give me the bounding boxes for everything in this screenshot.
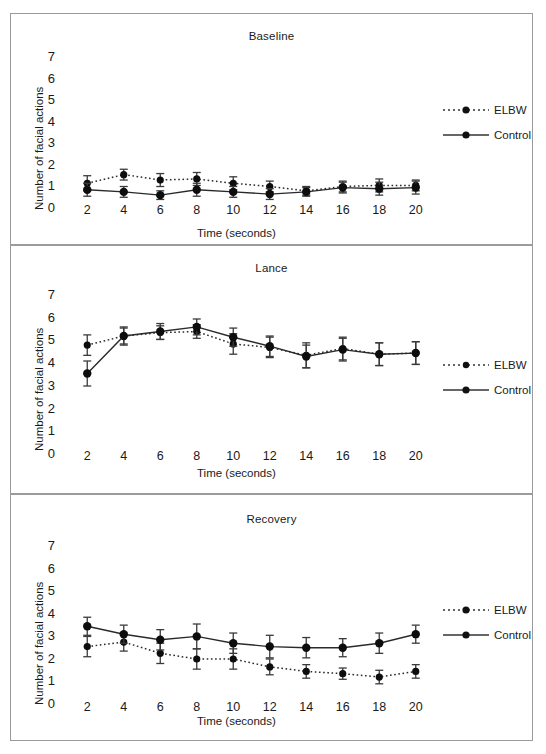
legend-key-elbw-icon bbox=[443, 359, 489, 371]
legend-key-elbw-icon bbox=[443, 104, 489, 116]
legend-label-elbw: ELBW bbox=[494, 104, 527, 116]
series-line-control bbox=[87, 327, 416, 374]
data-point-control bbox=[229, 333, 237, 341]
data-point-control bbox=[302, 352, 310, 360]
x-axis-title-recovery: Time (seconds) bbox=[197, 715, 276, 727]
x-tick-label: 14 bbox=[299, 203, 313, 217]
legend-label-control: Control bbox=[494, 629, 531, 641]
x-tick-label: 8 bbox=[193, 203, 200, 217]
x-tick-label: 12 bbox=[263, 449, 277, 463]
data-point-elbw bbox=[230, 180, 237, 187]
data-point-control bbox=[302, 188, 310, 196]
x-tick-label: 6 bbox=[157, 700, 164, 714]
y-tick-label: 6 bbox=[48, 310, 55, 325]
legend-item-elbw: ELBW bbox=[443, 102, 531, 118]
y-tick-label: 2 bbox=[48, 157, 55, 172]
x-tick-label: 18 bbox=[372, 449, 386, 463]
legend-label-elbw: ELBW bbox=[494, 359, 527, 371]
y-tick-label: 6 bbox=[48, 71, 55, 86]
y-tick-label: 4 bbox=[48, 606, 55, 621]
data-point-control bbox=[412, 349, 420, 357]
data-point-control bbox=[83, 622, 91, 630]
x-tick-label: 12 bbox=[263, 700, 277, 714]
panel-baseline: Baseline Number of facial actions 012345… bbox=[10, 13, 533, 245]
data-point-control bbox=[412, 630, 420, 638]
x-tick-label: 10 bbox=[226, 700, 240, 714]
y-tick-label: 7 bbox=[48, 49, 55, 64]
x-tick-label: 18 bbox=[372, 203, 386, 217]
y-tick-label: 5 bbox=[48, 583, 55, 598]
data-point-control bbox=[266, 642, 274, 650]
y-tick-label: 3 bbox=[48, 628, 55, 643]
x-tick-label: 20 bbox=[409, 449, 423, 463]
x-axis-title-baseline: Time (seconds) bbox=[197, 227, 276, 239]
y-tick-label: 3 bbox=[48, 378, 55, 393]
y-tick-label: 6 bbox=[48, 561, 55, 576]
legend-key-control-icon bbox=[443, 129, 489, 141]
data-point-control bbox=[229, 188, 237, 196]
data-point-elbw bbox=[193, 175, 200, 182]
x-tick-label: 6 bbox=[157, 203, 164, 217]
data-point-elbw bbox=[84, 342, 91, 349]
data-point-control bbox=[339, 644, 347, 652]
data-point-elbw bbox=[84, 643, 91, 650]
data-point-elbw bbox=[157, 650, 164, 657]
data-point-elbw bbox=[266, 663, 273, 670]
y-tick-label: 7 bbox=[48, 538, 55, 553]
legend-item-elbw: ELBW bbox=[443, 357, 531, 373]
data-point-control bbox=[375, 639, 383, 647]
legend-key-control-icon bbox=[443, 629, 489, 641]
data-point-control bbox=[193, 323, 201, 331]
y-tick-label: 0 bbox=[48, 446, 55, 461]
data-point-control bbox=[339, 183, 347, 191]
data-point-control bbox=[120, 332, 128, 340]
panel-recovery: Recovery Number of facial actions 012345… bbox=[10, 494, 533, 741]
x-tick-label: 16 bbox=[336, 203, 350, 217]
data-point-control bbox=[156, 191, 164, 199]
legend-label-control: Control bbox=[494, 129, 531, 141]
y-tick-label: 7 bbox=[48, 287, 55, 302]
x-tick-label: 14 bbox=[299, 449, 313, 463]
data-point-control bbox=[193, 186, 201, 194]
x-axis-title-lance: Time (seconds) bbox=[197, 467, 276, 479]
y-tick-label: 5 bbox=[48, 92, 55, 107]
x-tick-label: 4 bbox=[120, 449, 127, 463]
legend-item-control: Control bbox=[443, 382, 531, 398]
legend-baseline: ELBW Control bbox=[443, 102, 531, 152]
legend-label-control: Control bbox=[494, 384, 531, 396]
data-point-control bbox=[339, 345, 347, 353]
x-tick-label: 16 bbox=[336, 700, 350, 714]
y-tick-label: 1 bbox=[48, 178, 55, 193]
x-tick-label: 2 bbox=[84, 449, 91, 463]
series-line-elbw bbox=[87, 642, 416, 677]
figure-root: Baseline Number of facial actions 012345… bbox=[0, 0, 546, 754]
x-tick-label: 2 bbox=[84, 700, 91, 714]
x-tick-label: 8 bbox=[193, 700, 200, 714]
data-point-elbw bbox=[230, 655, 237, 662]
legend-recovery: ELBW Control bbox=[443, 602, 531, 652]
x-tick-label: 2 bbox=[84, 203, 91, 217]
x-tick-label: 16 bbox=[336, 449, 350, 463]
data-point-control bbox=[156, 636, 164, 644]
x-tick-label: 12 bbox=[263, 203, 277, 217]
series-line-control bbox=[87, 188, 416, 196]
data-point-elbw bbox=[376, 673, 383, 680]
y-tick-label: 4 bbox=[48, 114, 55, 129]
x-tick-label: 20 bbox=[409, 203, 423, 217]
data-point-control bbox=[375, 350, 383, 358]
data-point-control bbox=[156, 327, 164, 335]
data-point-control bbox=[302, 644, 310, 652]
data-point-control bbox=[375, 184, 383, 192]
series-line-control bbox=[87, 626, 416, 647]
data-point-elbw bbox=[120, 171, 127, 178]
y-tick-label: 2 bbox=[48, 651, 55, 666]
data-point-elbw bbox=[193, 655, 200, 662]
data-point-control bbox=[120, 630, 128, 638]
panel-lance: Lance Number of facial actions 012345672… bbox=[10, 245, 533, 494]
legend-key-control-icon bbox=[443, 384, 489, 396]
data-point-elbw bbox=[339, 670, 346, 677]
data-point-elbw bbox=[157, 176, 164, 183]
x-tick-label: 18 bbox=[372, 700, 386, 714]
y-tick-label: 3 bbox=[48, 135, 55, 150]
legend-label-elbw: ELBW bbox=[494, 604, 527, 616]
